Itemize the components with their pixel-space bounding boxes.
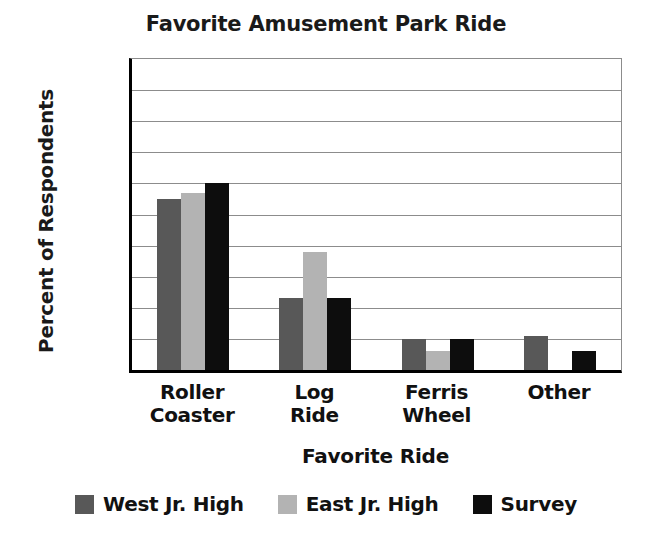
bar-group: [157, 59, 229, 370]
x-tick-label-line: Ferris: [376, 381, 498, 404]
bar: [524, 336, 548, 370]
x-tick-label: RollerCoaster: [131, 381, 253, 427]
x-tick-label-line: Other: [498, 381, 620, 404]
legend-item[interactable]: Survey: [473, 492, 577, 516]
bar: [279, 298, 303, 370]
bar-group: [524, 59, 596, 370]
bar-group: [279, 59, 351, 370]
x-tick-label: LogRide: [253, 381, 375, 427]
x-tick-label-line: Ride: [253, 404, 375, 427]
bar: [205, 183, 229, 370]
x-tick-label: FerrisWheel: [376, 381, 498, 427]
bar: [157, 199, 181, 370]
bar: [402, 339, 426, 370]
legend-label: West Jr. High: [103, 492, 244, 516]
legend-swatch-icon: [473, 495, 492, 514]
bar-group: [402, 59, 474, 370]
x-tick-label: Other: [498, 381, 620, 404]
x-axis-title: Favorite Ride: [129, 444, 622, 468]
bar-chart: Favorite Amusement Park Ride Percent of …: [0, 0, 652, 541]
legend-swatch-icon: [278, 495, 297, 514]
x-tick-label-line: Roller: [131, 381, 253, 404]
legend-item[interactable]: East Jr. High: [278, 492, 439, 516]
bar: [303, 252, 327, 370]
legend-swatch-icon: [75, 495, 94, 514]
bar: [572, 351, 596, 370]
plot-area: [129, 58, 622, 373]
chart-legend: West Jr. HighEast Jr. HighSurvey: [0, 492, 652, 516]
bar: [426, 351, 450, 370]
legend-label: East Jr. High: [306, 492, 439, 516]
bar: [181, 193, 205, 370]
x-tick-label-line: Coaster: [131, 404, 253, 427]
legend-label: Survey: [501, 492, 577, 516]
bar: [450, 339, 474, 370]
x-tick-label-line: Log: [253, 381, 375, 404]
legend-item[interactable]: West Jr. High: [75, 492, 244, 516]
x-tick-label-line: Wheel: [376, 404, 498, 427]
bar: [327, 298, 351, 370]
